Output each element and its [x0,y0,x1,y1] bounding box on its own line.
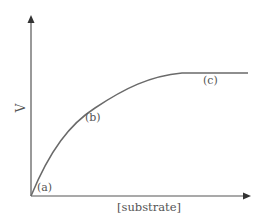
annotation-a: (a) [37,182,52,193]
y-axis-label: V [15,104,27,113]
y-axis-arrow-icon [28,15,35,23]
rate-curve [31,73,248,196]
annotation-b: (b) [85,112,101,123]
x-axis-arrow-icon [243,193,251,200]
substrate-velocity-diagram: V [substrate] (a) (b) (c) [0,0,265,224]
x-axis-label: [substrate] [117,202,181,214]
annotation-c: (c) [203,75,218,86]
